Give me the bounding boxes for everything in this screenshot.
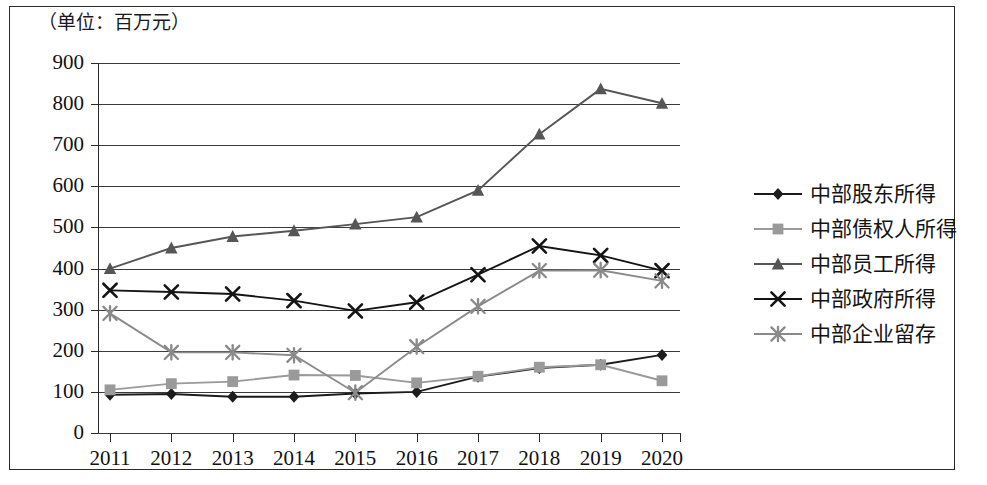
- data-point-square: [595, 359, 606, 370]
- legend-label: 中部股东所得: [804, 182, 936, 206]
- x-tick-label: 2016: [382, 447, 452, 469]
- x-tick-label: 2018: [504, 447, 574, 469]
- data-point-asterisk: [471, 299, 484, 313]
- y-tick-mark: [91, 63, 98, 64]
- data-point-diamond: [166, 388, 177, 400]
- y-tick-mark: [91, 227, 98, 228]
- x-tick-label: 2013: [198, 447, 268, 469]
- y-tick-label: 0: [24, 422, 84, 443]
- data-point-triangle: [533, 128, 545, 140]
- data-point-square: [534, 362, 545, 373]
- x-tick-label: 2015: [320, 447, 390, 469]
- data-point-asterisk: [410, 339, 423, 353]
- data-point-diamond: [289, 391, 300, 403]
- x-tick-mark: [539, 433, 540, 442]
- data-point-triangle: [410, 211, 422, 223]
- legend-marker-asterisk-icon: [752, 323, 804, 345]
- y-tick-mark: [91, 145, 98, 146]
- data-point-square: [773, 223, 784, 234]
- y-tick-mark: [91, 310, 98, 311]
- data-point-square: [473, 371, 484, 382]
- series-x-cross: [103, 239, 668, 317]
- x-tick-label: 2017: [443, 447, 513, 469]
- data-point-square: [657, 375, 668, 386]
- data-point-square: [166, 378, 177, 389]
- legend-item-x-cross[interactable]: 中部政府所得: [752, 281, 952, 316]
- data-point-square: [289, 370, 300, 381]
- series-square: [105, 359, 668, 395]
- y-tick-mark: [91, 269, 98, 270]
- x-tick-mark: [233, 433, 234, 442]
- y-tick-label: 400: [24, 258, 84, 279]
- series-triangle: [104, 83, 668, 274]
- x-tick-label: 2020: [627, 447, 697, 469]
- x-tick-label: 2019: [566, 447, 636, 469]
- legend-label: 中部债权人所得: [804, 217, 957, 241]
- data-point-diamond: [227, 391, 238, 403]
- x-tick-mark: [110, 433, 111, 442]
- x-tick-mark-end: [680, 433, 681, 442]
- series-diamond: [105, 349, 668, 403]
- legend-item-square[interactable]: 中部债权人所得: [752, 211, 952, 246]
- data-point-square: [411, 377, 422, 388]
- plot-area: 0100200300400500600700800900 20112012201…: [98, 63, 680, 433]
- y-tick-mark: [91, 351, 98, 352]
- unit-label: （单位：百万元）: [38, 10, 190, 34]
- data-point-asterisk: [103, 306, 116, 320]
- data-point-square: [105, 384, 116, 395]
- y-tick-label: 600: [24, 175, 84, 196]
- x-tick-label: 2011: [75, 447, 145, 469]
- chart-figure: （单位：百万元） 0100200300400500600700800900 20…: [0, 0, 987, 485]
- x-tick-mark: [601, 433, 602, 442]
- y-tick-mark: [91, 392, 98, 393]
- y-tick-label: 800: [24, 93, 84, 114]
- x-tick-label: 2012: [136, 447, 206, 469]
- data-point-x-cross: [471, 268, 484, 281]
- series-layer: [98, 63, 680, 433]
- x-tick-mark: [417, 433, 418, 442]
- chart-legend: 中部股东所得中部债权人所得中部员工所得中部政府所得中部企业留存: [752, 176, 952, 351]
- legend-label: 中部企业留存: [804, 322, 936, 346]
- legend-marker-square-icon: [752, 218, 804, 240]
- legend-marker-diamond-icon: [752, 183, 804, 205]
- y-tick-label: 200: [24, 340, 84, 361]
- x-tick-mark: [171, 433, 172, 442]
- legend-label: 中部员工所得: [804, 252, 936, 276]
- data-point-diamond: [657, 349, 668, 361]
- data-point-square: [350, 370, 361, 381]
- y-tick-mark: [91, 433, 98, 434]
- data-point-diamond: [773, 188, 784, 200]
- legend-item-triangle[interactable]: 中部员工所得: [752, 246, 952, 281]
- data-point-square: [227, 376, 238, 387]
- legend-marker-x-cross-icon: [752, 288, 804, 310]
- y-tick-label: 900: [24, 52, 84, 73]
- legend-label: 中部政府所得: [804, 287, 936, 311]
- legend-item-diamond[interactable]: 中部股东所得: [752, 176, 952, 211]
- y-tick-label: 100: [24, 381, 84, 402]
- y-tick-label: 500: [24, 216, 84, 237]
- x-tick-label: 2014: [259, 447, 329, 469]
- y-tick-label: 700: [24, 134, 84, 155]
- x-tick-mark: [662, 433, 663, 442]
- legend-marker-triangle-icon: [752, 253, 804, 275]
- y-tick-mark: [91, 186, 98, 187]
- legend-item-asterisk[interactable]: 中部企业留存: [752, 316, 952, 351]
- data-point-triangle: [594, 83, 606, 95]
- x-tick-mark: [355, 433, 356, 442]
- x-tick-mark: [478, 433, 479, 442]
- y-tick-label: 300: [24, 299, 84, 320]
- x-axis-ticks: 2011201220132014201520162017201820192020: [98, 433, 680, 443]
- y-tick-mark: [91, 104, 98, 105]
- x-tick-mark: [294, 433, 295, 442]
